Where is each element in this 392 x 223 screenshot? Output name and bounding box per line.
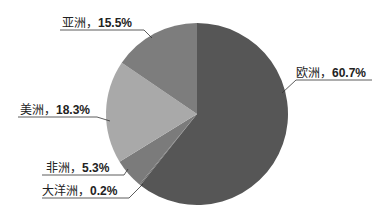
label-africa: 非洲，5.3% <box>46 161 109 175</box>
label-americas: 美洲，18.3% <box>20 103 90 117</box>
label-europe-value: 60.7% <box>332 66 366 80</box>
label-oceania-value: 0.2% <box>90 184 117 198</box>
label-asia: 亚洲，15.5% <box>62 16 132 30</box>
leader-line-asia <box>60 30 152 38</box>
label-africa-value: 5.3% <box>82 161 109 175</box>
label-separator: ， <box>86 16 98 30</box>
label-americas-name: 美洲 <box>20 103 44 117</box>
label-americas-value: 18.3% <box>56 103 90 117</box>
label-oceania-name: 大洋洲 <box>42 184 78 198</box>
label-africa-name: 非洲 <box>46 161 70 175</box>
label-separator: ， <box>44 103 56 117</box>
label-separator: ， <box>70 161 82 175</box>
label-asia-value: 15.5% <box>98 16 132 30</box>
label-europe-name: 欧洲 <box>296 66 320 80</box>
label-asia-name: 亚洲 <box>62 16 86 30</box>
label-oceania: 大洋洲，0.2% <box>42 184 117 198</box>
leader-line-europe <box>282 80 372 93</box>
label-separator: ， <box>78 184 90 198</box>
label-separator: ， <box>320 66 332 80</box>
pie-slices <box>106 23 288 205</box>
label-europe: 欧洲，60.7% <box>296 66 366 80</box>
leader-line-americas <box>18 117 110 121</box>
